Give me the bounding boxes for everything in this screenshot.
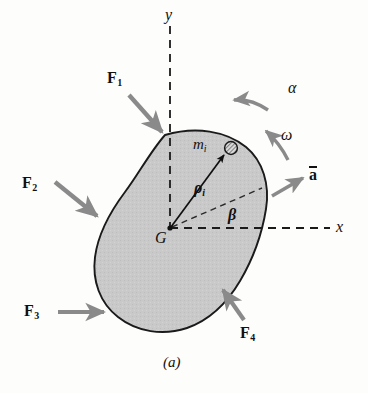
alpha-arrow — [234, 100, 268, 110]
alpha-label: α — [288, 80, 296, 96]
f3-subscript: 3 — [34, 310, 39, 321]
force-arrow-f4 — [223, 290, 244, 320]
f4-subscript: 4 — [250, 332, 255, 343]
f4-arrow-shaft — [223, 290, 244, 320]
particle-mass-label: mi — [193, 137, 207, 154]
abar-arrow-shaft — [272, 178, 303, 196]
f2-subscript: 2 — [32, 182, 37, 193]
force-arrow-f2 — [55, 182, 97, 216]
abar-symbol: a — [309, 166, 317, 183]
rho-subscript: i — [202, 187, 205, 198]
alpha-curved-arrow — [234, 100, 268, 110]
g-dot — [167, 225, 172, 230]
f3-symbol: F — [24, 302, 34, 319]
mass-symbol: m — [193, 136, 204, 152]
particle-circle — [225, 142, 238, 155]
force-arrow-f1 — [129, 95, 162, 132]
f2-arrow-shaft — [55, 182, 97, 216]
force-label-f4: F4 — [240, 325, 255, 343]
mass-subscript: i — [204, 143, 207, 154]
rigid-body-diagram-canvas — [0, 0, 368, 393]
acceleration-arrow — [272, 178, 303, 196]
omega-label: ω — [281, 127, 292, 143]
f1-arrow-shaft — [129, 95, 162, 132]
x-axis-label: x — [336, 219, 343, 235]
force-label-f3: F3 — [24, 303, 39, 321]
beta-angle-label: β — [228, 207, 236, 223]
f1-subscript: 1 — [117, 77, 122, 88]
force-label-f2: F2 — [22, 175, 37, 193]
particle-mi — [225, 142, 238, 155]
f2-symbol: F — [22, 174, 32, 191]
f1-symbol: F — [107, 69, 117, 86]
center-of-mass-label: G — [155, 230, 167, 246]
figure-caption: (a) — [163, 355, 181, 370]
force-label-f1: F1 — [107, 70, 122, 88]
f4-symbol: F — [240, 324, 250, 341]
center-of-mass-point — [167, 225, 172, 230]
rho-vector-label: ρi — [194, 180, 205, 198]
acceleration-label: a — [309, 166, 317, 183]
figure-container: y x G F1 F2 F3 F4 mi ρi β α ω a (a) — [0, 0, 368, 393]
y-axis-label: y — [165, 7, 172, 23]
rigid-body-shape — [94, 131, 267, 332]
body-outline-path — [94, 131, 267, 332]
rho-symbol: ρ — [194, 179, 202, 196]
